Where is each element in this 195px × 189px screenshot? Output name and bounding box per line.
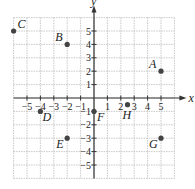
x-axis-arrow-icon <box>179 96 186 101</box>
point-label-b: B <box>55 30 63 44</box>
x-tick-label: 5 <box>159 101 164 112</box>
point-c <box>11 28 16 33</box>
point-label-f: F <box>96 110 105 124</box>
point-label-e: E <box>55 137 64 151</box>
point-e <box>65 136 70 141</box>
point-label-c: C <box>18 17 27 31</box>
x-tick-label: 1 <box>105 101 110 112</box>
y-tick-label: −2 <box>80 119 91 130</box>
x-axis-label: x <box>187 91 194 105</box>
point-label-a: A <box>148 57 157 71</box>
y-tick-label: 4 <box>86 39 91 50</box>
y-tick-label: 5 <box>86 26 91 37</box>
point-h <box>125 102 130 107</box>
point-f <box>91 109 96 114</box>
y-tick-label: −5 <box>80 160 91 171</box>
y-tick-label: −4 <box>80 146 91 157</box>
y-tick-label: 1 <box>86 79 91 90</box>
point-label-d: D <box>41 110 51 124</box>
point-a <box>158 69 163 74</box>
point-label-g: G <box>149 137 158 151</box>
x-tick-label: −2 <box>62 101 73 112</box>
y-tick-label: 3 <box>86 52 91 63</box>
x-tick-label: −5 <box>22 101 33 112</box>
point-b <box>65 42 70 47</box>
x-tick-label: 4 <box>145 101 150 112</box>
y-axis-label: y <box>90 0 97 8</box>
y-tick-label: 2 <box>86 66 91 77</box>
y-tick-label: −3 <box>80 133 91 144</box>
point-label-h: H <box>122 108 133 122</box>
x-tick-label: 3 <box>132 101 137 112</box>
y-tick-label: −1 <box>80 106 91 117</box>
point-g <box>158 136 163 141</box>
coordinate-plane: xy −5−4−3−2−11234554321−1−2−3−4−5 ABCDEF… <box>0 0 195 189</box>
